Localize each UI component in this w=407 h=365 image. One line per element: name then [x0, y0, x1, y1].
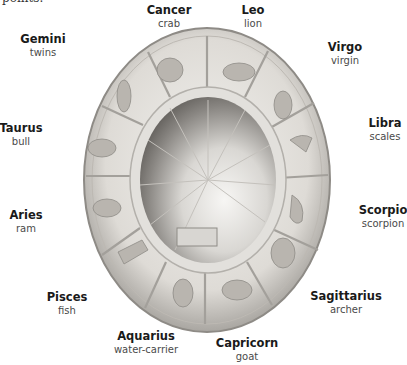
sign-meaning: scorpion [359, 218, 407, 229]
sign-label-capricorn: Capricorn goat [216, 337, 279, 362]
sign-label-taurus: Taurus bull [0, 122, 43, 147]
sign-meaning: twins [20, 47, 65, 58]
sign-meaning: archer [310, 304, 382, 315]
sign-name: Libra [369, 117, 402, 130]
sign-label-leo: Leo lion [241, 4, 264, 29]
sign-label-virgo: Virgo virgin [328, 41, 362, 66]
sign-name: Scorpio [359, 204, 407, 217]
sign-meaning: scales [369, 131, 402, 142]
sign-label-cancer: Cancer crab [147, 4, 192, 29]
central-plinth [177, 228, 217, 246]
sign-name: Leo [241, 4, 264, 17]
sign-meaning: fish [47, 305, 88, 316]
sign-label-gemini: Gemini twins [20, 33, 65, 58]
sign-label-libra: Libra scales [369, 117, 402, 142]
sign-name: Taurus [0, 122, 43, 135]
sign-label-aquarius: Aquarius water-carrier [114, 330, 178, 355]
sign-meaning: virgin [328, 55, 362, 66]
sign-meaning: water-carrier [114, 344, 178, 355]
sign-name: Gemini [20, 33, 65, 46]
sign-name: Virgo [328, 41, 362, 54]
sign-name: Aries [9, 209, 42, 222]
sign-name: Aquarius [114, 330, 178, 343]
sign-meaning: crab [147, 18, 192, 29]
sign-label-pisces: Pisces fish [47, 291, 88, 316]
sign-meaning: goat [216, 351, 279, 362]
sign-label-aries: Aries ram [9, 209, 42, 234]
sign-name: Pisces [47, 291, 88, 304]
sign-meaning: bull [0, 136, 43, 147]
sign-meaning: ram [9, 223, 42, 234]
sign-name: Sagittarius [310, 290, 382, 303]
sign-meaning: lion [241, 18, 264, 29]
sign-label-scorpio: Scorpio scorpion [359, 204, 407, 229]
sign-name: Cancer [147, 4, 192, 17]
sign-name: Capricorn [216, 337, 279, 350]
sign-label-sagittarius: Sagittarius archer [310, 290, 382, 315]
